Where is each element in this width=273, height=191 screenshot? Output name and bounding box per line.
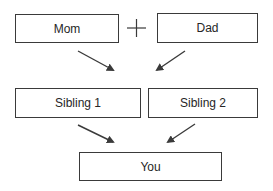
node-label: Dad — [196, 21, 218, 35]
arrow-sibling2-to-you — [168, 124, 195, 142]
node-label: Sibling 1 — [55, 96, 101, 110]
node-sibling-2: Sibling 2 — [148, 88, 258, 118]
node-label: Sibling 2 — [180, 96, 226, 110]
node-sibling-1: Sibling 1 — [15, 88, 141, 118]
arrow-sibling1-to-you — [78, 125, 113, 142]
node-dad: Dad — [157, 13, 258, 43]
arrow-dad-to-siblings — [157, 51, 185, 70]
node-label: You — [140, 160, 160, 174]
node-you: You — [79, 152, 222, 181]
arrow-mom-to-siblings — [78, 51, 113, 70]
plus-icon — [127, 19, 146, 37]
